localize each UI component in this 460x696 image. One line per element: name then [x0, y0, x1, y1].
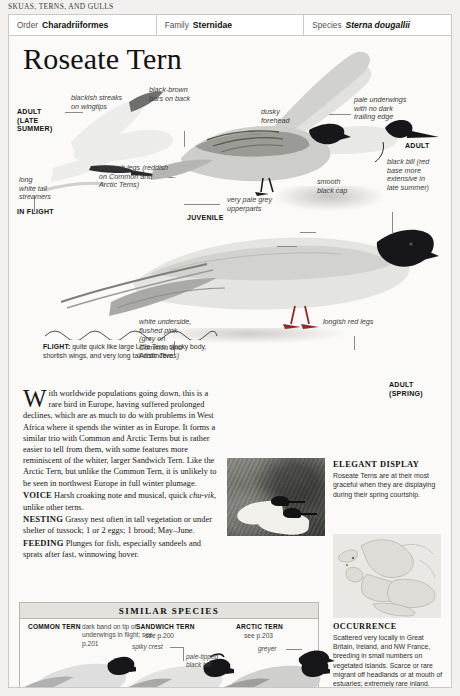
taxonomy-family-value: Sternidae	[193, 20, 232, 30]
photo-tern-left-bill	[287, 501, 305, 503]
species-account: With worldwide populations going down, t…	[23, 388, 221, 561]
courtship-photo	[227, 458, 325, 536]
similar-common-tern-name: COMMON TERN	[28, 623, 81, 630]
similar-species-heading: SIMILAR SPECIES	[20, 603, 318, 619]
leader-blackish-streaks	[65, 112, 83, 113]
section-voice-text: Harsh croaking note and musical, quick	[52, 491, 189, 500]
label-pale-underwings: pale underwings with no dark trailing ed…	[354, 96, 406, 122]
flight-label: FLIGHT:	[43, 343, 70, 350]
similar-arctic-label-bill: pale-tipped black bill	[186, 653, 218, 669]
label-black-brown-bars: black-brown bars on back	[149, 86, 190, 103]
label-black-bill: black bill (red base more extensive in l…	[387, 158, 429, 192]
leader-spiky-crest	[170, 647, 184, 648]
tail-streamers-illustration	[57, 254, 217, 314]
label-longish-red-legs: longish red legs	[323, 318, 373, 327]
leader-upperparts	[277, 246, 297, 247]
similar-common-tern-illustration	[24, 653, 136, 688]
leader-black-bill	[392, 212, 393, 234]
label-very-pale-grey-upperparts: very pale grey upperparts	[227, 196, 272, 213]
taxonomy-species-value: Sterna dougallii	[345, 20, 409, 30]
occurrence-block: OCCURRENCE Scattered very locally in Gre…	[333, 622, 445, 688]
taxonomy-family: Family Sternidae	[157, 15, 305, 35]
occurrence-heading: OCCURRENCE	[333, 622, 445, 631]
label-blackish-streaks: blackish streaks on wingtips	[71, 94, 122, 111]
leader-black-brown-bars	[184, 131, 185, 147]
guide-page: SKUAS, TERNS, AND GULLS Order Charadriif…	[0, 0, 460, 696]
account-intro-text: ith worldwide populations going down, th…	[23, 389, 216, 488]
taxonomy-family-label: Family	[165, 21, 189, 30]
section-nesting-heading: NESTING	[23, 514, 63, 524]
taxonomy-order-label: Order	[17, 21, 38, 30]
similar-arctic-label-greyer: greyer	[258, 645, 276, 653]
label-blackish-legs: blackish legs (reddish on Common and Arc…	[99, 164, 168, 190]
label-smooth-black-cap: smooth black cap	[317, 178, 347, 195]
photo-tern-right-bill	[299, 513, 317, 515]
label-long-white-tail-streamers: long white tail streamers	[19, 176, 51, 202]
section-feeding: FEEDING Plunges for fish, especially san…	[23, 538, 221, 560]
elegant-display-block: ELEGANT DISPLAY Roseate Terns are at the…	[333, 460, 441, 499]
similar-sandwich-tern-name: SANDWICH TERN	[136, 623, 195, 630]
leader-red-legs	[354, 336, 355, 350]
similar-arctic-tern-name: ARCTIC TERN	[236, 623, 283, 630]
similar-arctic-tern-page: see p.203	[244, 632, 273, 639]
section-voice-italic: chu-vik	[189, 491, 214, 500]
section-voice-heading: VOICE	[23, 490, 52, 500]
leader-pale-underwings	[329, 114, 351, 115]
leader-blackish-legs	[184, 204, 220, 205]
section-voice: VOICE Harsh croaking note and musical, q…	[23, 490, 221, 512]
caption-adult-late-summer: ADULT (LATE SUMMER)	[17, 108, 53, 134]
section-feeding-heading: FEEDING	[23, 538, 64, 548]
section-nesting: NESTING Grassy nest often in tall vegeta…	[23, 514, 221, 536]
species-plate: Roseate Tern	[8, 36, 452, 688]
taxonomy-species: Species Sterna dougallii	[304, 15, 451, 35]
taxonomy-order-value: Charadriiformes	[42, 20, 108, 30]
caption-juvenile: JUVENILE	[187, 214, 224, 223]
elegant-display-heading: ELEGANT DISPLAY	[333, 460, 441, 469]
running-head: SKUAS, TERNS, AND GULLS	[8, 2, 114, 11]
leader-arctic-bill	[183, 647, 184, 661]
caption-adult-spring: ADULT (SPRING)	[389, 381, 423, 398]
leader-dusky-forehead	[247, 134, 261, 135]
distribution-map	[333, 534, 441, 618]
similar-sandwich-label-crest: spiky crest	[132, 643, 163, 651]
taxonomy-order: Order Charadriiformes	[9, 15, 157, 35]
drop-cap: W	[23, 388, 49, 408]
caption-in-flight: IN FLIGHT	[17, 208, 54, 217]
similar-sandwich-tern-page: see p.200	[145, 632, 174, 639]
taxonomy-bar: Order Charadriiformes Family Sternidae S…	[8, 14, 452, 36]
caption-adult-flight: ADULT	[405, 142, 430, 151]
account-intro: With worldwide populations going down, t…	[23, 388, 221, 489]
illustration-area: ADULT (LATE SUMMER) blackish streaks on …	[9, 36, 452, 366]
europe-map-icon	[333, 534, 441, 618]
label-dusky-forehead: dusky forehead	[261, 108, 289, 125]
occurrence-text: Scattered very locally in Great Britain,…	[333, 633, 445, 688]
similar-species-box: SIMILAR SPECIES COMMON TERN dark band on…	[19, 602, 319, 688]
leader-black-cap	[300, 232, 316, 233]
flight-note: FLIGHT: quite quick like large Little Te…	[43, 326, 219, 360]
elegant-display-text: Roseate Terns are at their most graceful…	[333, 471, 441, 499]
flight-wave-icon	[43, 326, 219, 340]
taxonomy-species-label: Species	[312, 21, 341, 30]
arctic-tern-head-icon	[295, 648, 335, 670]
